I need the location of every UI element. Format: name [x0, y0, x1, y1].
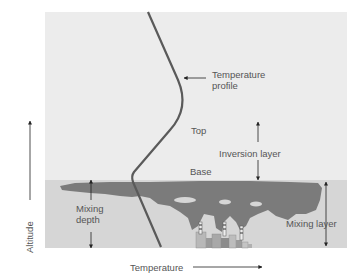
upper-air-region — [45, 12, 347, 180]
x-axis-label: Temperature — [130, 262, 183, 273]
mixing-layer-label: Mixing layer — [286, 218, 337, 229]
base-label: Base — [190, 166, 212, 177]
smog-gap — [219, 200, 231, 205]
inversion-layer-label: Inversion layer — [219, 148, 281, 159]
y-axis-label: Altitude — [24, 221, 35, 253]
inversion-diagram — [0, 0, 363, 279]
mixing-depth-label: Mixing depth — [76, 203, 103, 225]
smog-gap — [250, 202, 262, 207]
temperature-profile-label: Temperature profile — [212, 69, 265, 91]
smog-gap — [174, 197, 196, 203]
top-label: Top — [191, 125, 206, 136]
